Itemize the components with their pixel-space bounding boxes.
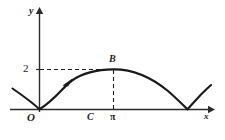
y-axis <box>36 7 43 112</box>
y-axis-label: y <box>29 6 33 16</box>
point-c-label: C <box>87 112 94 122</box>
point-b-label: B <box>109 54 116 64</box>
math-figure: y x O C π B 2 <box>0 0 225 140</box>
y-axis-arrowhead <box>36 7 43 14</box>
x-axis-label: x <box>204 112 209 121</box>
origin-label: O <box>27 112 35 123</box>
x-tick-pi-label: π <box>110 112 115 122</box>
curve-main-arch <box>40 69 188 109</box>
curve-left-tail <box>13 89 40 110</box>
x-axis-arrowhead <box>208 106 215 113</box>
curve-right-tail <box>188 85 212 109</box>
y-tick-2-label: 2 <box>23 63 29 74</box>
